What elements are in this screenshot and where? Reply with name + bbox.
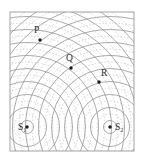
source-label-subscript-S2: 2	[120, 127, 123, 133]
interference-figure: PQRS1S2	[0, 0, 144, 160]
point-dot-R	[97, 80, 100, 83]
source-label-subscript-S1: 1	[23, 127, 26, 133]
point-dot-Q	[69, 66, 72, 69]
point-label-Q: Q	[66, 53, 73, 63]
interference-diagram: PQRS1S2	[0, 0, 144, 160]
source-dot-S2	[108, 125, 111, 128]
point-label-R: R	[101, 68, 108, 78]
point-dot-P	[38, 38, 41, 41]
point-label-P: P	[34, 25, 39, 35]
